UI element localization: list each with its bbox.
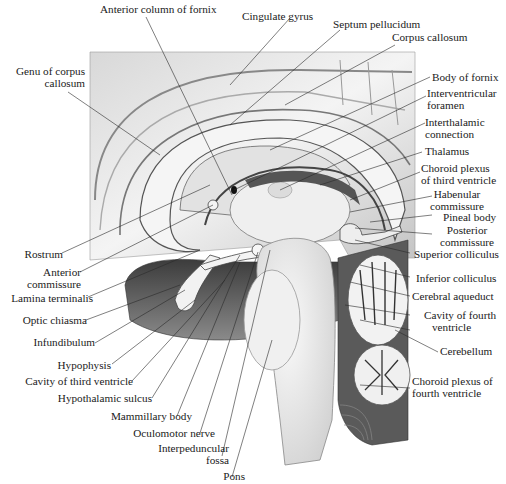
label-interventricular-foramen: Interventricular foramen bbox=[427, 87, 497, 111]
label-lamina-terminalis: Lamina terminalis bbox=[3, 292, 93, 304]
label-pineal-body: Pineal body bbox=[443, 211, 496, 223]
label-oculomotor-nerve: Oculomotor nerve bbox=[5, 427, 215, 439]
label-thalamus: Thalamus bbox=[425, 145, 469, 157]
label-posterior-commissure: Posterior commissure bbox=[440, 224, 494, 248]
brain-diagram: Anterior column of fornix Cingulate gyru… bbox=[0, 0, 506, 484]
label-choroid-plexus-of-fourth-ventricle: Choroid plexus of fourth ventricle bbox=[412, 375, 493, 399]
label-habenular-commissure: Habenular commissure bbox=[430, 188, 484, 212]
label-cingulate-gyrus: Cingulate gyrus bbox=[242, 10, 313, 22]
label-genu-of-corpus-callosum: Genu of corpus callosum bbox=[5, 65, 85, 89]
label-superior-colliculus: Superior colliculus bbox=[414, 248, 499, 260]
label-corpus-callosum: Corpus callosum bbox=[392, 31, 468, 43]
label-hypothalamic-sulcus: Hypothalamic sulcus bbox=[5, 392, 152, 404]
label-cerebellum: Cerebellum bbox=[440, 345, 492, 357]
label-interthalamic-connection: Interthalamic connection bbox=[425, 116, 485, 140]
brainstem bbox=[244, 238, 335, 465]
label-cavity-of-fourth-ventricle: Cavity of fourth ventricle bbox=[424, 309, 496, 333]
label-rostrum: Rostrum bbox=[5, 248, 63, 260]
label-cerebral-aqueduct: Cerebral aqueduct bbox=[412, 290, 494, 302]
cerebellum-region bbox=[338, 224, 410, 445]
label-optic-chiasma: Optic chiasma bbox=[5, 314, 87, 326]
label-cavity-of-third-ventricle: Cavity of third ventricle bbox=[5, 375, 133, 387]
label-infundibulum: Infundibulum bbox=[5, 336, 95, 348]
label-pons: Pons bbox=[5, 470, 245, 482]
label-inferior-colliculus: Inferior colliculus bbox=[416, 272, 496, 284]
label-body-of-fornix: Body of fornix bbox=[432, 71, 499, 83]
label-mammillary-body: Mammillary body bbox=[5, 410, 192, 422]
label-interpeduncular-fossa: Interpeduncular fossa bbox=[5, 442, 229, 466]
label-choroid-plexus-of-third-ventricle: Choroid plexus of third ventricle bbox=[421, 162, 496, 186]
label-anterior-column-of-fornix: Anterior column of fornix bbox=[100, 3, 217, 15]
label-septum-pellucidum: Septum pellucidum bbox=[333, 18, 420, 30]
label-hypophysis: Hypophysis bbox=[5, 359, 111, 371]
label-anterior-commissure: Anterior commissure bbox=[5, 266, 81, 290]
